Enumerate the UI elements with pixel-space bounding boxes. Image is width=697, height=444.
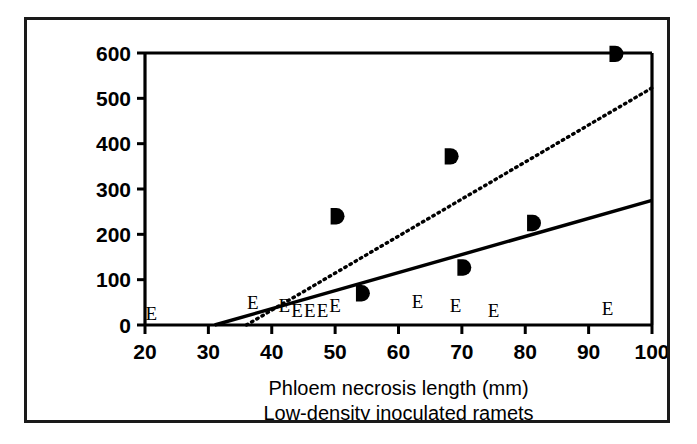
x-axis-title: Phloem necrosis length (mm) (268, 377, 528, 399)
chart-subtitle: Low-density inoculated ramets (263, 402, 533, 420)
figure-container: 01002003004005006002030405060708090100EE… (0, 0, 697, 444)
data-point-D (331, 208, 345, 224)
series-D (331, 46, 624, 302)
x-tick-label: 30 (197, 340, 220, 363)
data-point-E: E (247, 292, 259, 313)
data-point-E: E (304, 300, 316, 321)
series-E: EEEEEEEEEEE (146, 291, 614, 325)
data-point-D (445, 148, 459, 164)
y-tick-label: 300 (96, 178, 131, 201)
data-point-D (609, 46, 623, 62)
y-tick-label: 200 (96, 223, 131, 246)
x-tick-label: 70 (450, 340, 473, 363)
data-point-E: E (291, 300, 303, 321)
y-tick-label: 600 (96, 42, 131, 65)
dotted-regression (246, 88, 652, 325)
data-point-E: E (279, 295, 291, 316)
figure-frame: 01002003004005006002030405060708090100EE… (24, 17, 670, 423)
data-point-D (527, 215, 541, 231)
x-tick-label: 20 (133, 340, 156, 363)
y-tick-label: 500 (96, 87, 131, 110)
data-point-D (457, 259, 471, 275)
data-point-E: E (602, 298, 614, 319)
x-tick-label: 90 (577, 340, 600, 363)
x-tick-label: 60 (387, 340, 410, 363)
x-tick-label: 40 (260, 340, 283, 363)
x-tick-label: 80 (514, 340, 537, 363)
data-point-D (356, 285, 370, 301)
data-point-E: E (146, 303, 158, 324)
y-tick-label: 100 (96, 268, 131, 291)
data-point-E: E (412, 291, 424, 312)
x-tick-label: 100 (634, 340, 667, 363)
data-point-E: E (450, 295, 462, 316)
y-tick-label: 0 (119, 314, 131, 337)
x-tick-label: 50 (323, 340, 346, 363)
data-point-E: E (329, 295, 341, 316)
y-tick-label: 400 (96, 132, 131, 155)
data-point-E: E (317, 300, 329, 321)
scatter-chart: 01002003004005006002030405060708090100EE… (27, 20, 667, 420)
data-point-E: E (488, 300, 500, 321)
